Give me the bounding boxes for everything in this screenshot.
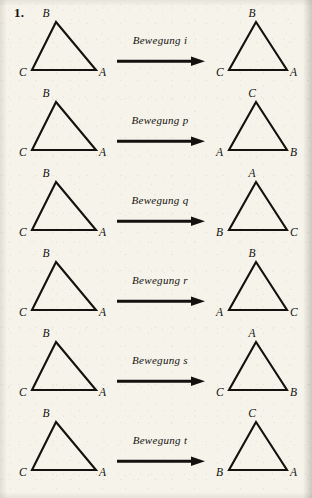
transformation-arrow-group: Bewegung t (112, 406, 208, 486)
operation-label: Bewegung s (112, 354, 208, 366)
vertex-label-apex: B (0, 8, 94, 20)
operation-label: Bewegung p (112, 114, 208, 126)
result-triangle: B A C (212, 246, 308, 326)
transformation-row: B C A Bewegung p C A B (0, 86, 312, 166)
transformation-row: B C A Bewegung q A B C (0, 166, 312, 246)
source-triangle: B C A (18, 166, 114, 246)
vertex-label-bottom-left: A (216, 147, 223, 159)
transformation-arrow-group: Bewegung p (112, 86, 208, 166)
source-triangle: B C A (18, 6, 114, 86)
arrow-icon (117, 136, 205, 147)
vertex-label-bottom-left: B (216, 227, 223, 239)
vertex-label-bottom-left: C (19, 307, 27, 319)
scanned-page: 1. B C A Bewegung i B C A (0, 0, 312, 498)
transformation-row: B C A Bewegung s A C B (0, 326, 312, 406)
vertex-label-bottom-left: C (19, 387, 27, 399)
vertex-label-bottom-right: B (290, 387, 297, 399)
vertex-label-apex: C (204, 408, 300, 420)
vertex-label-bottom-left: C (216, 387, 224, 399)
vertex-label-apex: A (204, 328, 300, 340)
vertex-label-bottom-left: A (216, 307, 223, 319)
source-triangle: B C A (18, 246, 114, 326)
arrow-icon (117, 216, 205, 227)
vertex-label-bottom-left: C (19, 467, 27, 479)
result-triangle: C B A (212, 406, 308, 486)
vertex-label-bottom-right: A (99, 387, 106, 399)
vertex-label-bottom-left: B (216, 467, 223, 479)
vertex-label-bottom-left: C (19, 147, 27, 159)
arrow-icon (117, 56, 205, 67)
transformation-arrow-group: Bewegung i (112, 6, 208, 86)
result-triangle: B C A (212, 6, 308, 86)
vertex-label-apex: B (0, 168, 94, 180)
transformation-arrow-group: Bewegung s (112, 326, 208, 406)
vertex-label-apex: C (204, 88, 300, 100)
vertex-label-bottom-left: C (19, 227, 27, 239)
operation-label: Bewegung t (112, 434, 208, 446)
vertex-label-bottom-left: C (216, 67, 224, 79)
vertex-label-apex: B (204, 248, 300, 260)
arrow-icon (117, 376, 205, 387)
transformation-row: B C A Bewegung i B C A (0, 6, 312, 86)
operation-label: Bewegung q (112, 194, 208, 206)
vertex-label-apex: B (0, 408, 94, 420)
vertex-label-bottom-right: B (290, 147, 297, 159)
vertex-label-bottom-right: C (290, 227, 298, 239)
source-triangle: B C A (18, 86, 114, 166)
transformation-row: B C A Bewegung r B A C (0, 246, 312, 326)
result-triangle: A B C (212, 166, 308, 246)
operation-label: Bewegung r (112, 274, 208, 286)
vertex-label-bottom-right: A (290, 67, 297, 79)
vertex-label-bottom-right: A (99, 147, 106, 159)
vertex-label-apex: B (0, 328, 94, 340)
vertex-label-bottom-right: A (99, 227, 106, 239)
transformation-arrow-group: Bewegung r (112, 246, 208, 326)
vertex-label-bottom-right: A (290, 467, 297, 479)
result-triangle: A C B (212, 326, 308, 406)
vertex-label-bottom-right: A (99, 467, 106, 479)
result-triangle: C A B (212, 86, 308, 166)
vertex-label-apex: A (204, 168, 300, 180)
transformation-row: B C A Bewegung t C B A (0, 406, 312, 486)
vertex-label-bottom-right: A (99, 307, 106, 319)
transformation-arrow-group: Bewegung q (112, 166, 208, 246)
vertex-label-apex: B (0, 88, 94, 100)
arrow-icon (117, 296, 205, 307)
source-triangle: B C A (18, 406, 114, 486)
vertex-label-bottom-right: C (290, 307, 298, 319)
vertex-label-bottom-right: A (99, 67, 106, 79)
operation-label: Bewegung i (112, 34, 208, 46)
vertex-label-bottom-left: C (19, 67, 27, 79)
source-triangle: B C A (18, 326, 114, 406)
vertex-label-apex: B (204, 8, 300, 20)
arrow-icon (117, 456, 205, 467)
vertex-label-apex: B (0, 248, 94, 260)
